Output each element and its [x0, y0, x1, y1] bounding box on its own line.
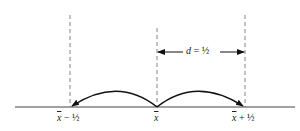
curved-arrow-left: [72, 91, 157, 107]
label-right-suffix: + ½: [236, 112, 254, 123]
label-left: x − ½: [57, 112, 80, 123]
label-center: x: [154, 112, 158, 123]
label-left-suffix: − ½: [61, 112, 79, 123]
distance-eq: =: [191, 45, 202, 56]
curved-arrow-right: [157, 91, 243, 107]
distance-label: d = ½: [186, 45, 209, 56]
number-line-diagram: [0, 0, 300, 131]
label-right: x + ½: [232, 112, 255, 123]
distance-value: ½: [202, 45, 210, 56]
xbar-symbol: x: [154, 112, 158, 123]
